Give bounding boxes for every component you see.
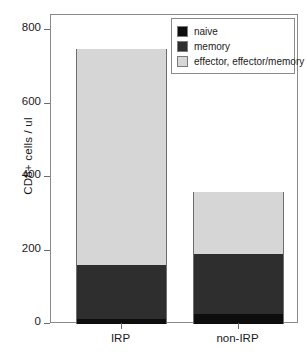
legend: naivememoryeffector, effector/memory [171, 18, 295, 74]
y-tick-label: 600 [22, 95, 41, 107]
bar-segment-memory [77, 265, 166, 319]
legend-swatch-icon [177, 41, 188, 52]
bar-segment-effector [194, 192, 283, 254]
y-tick: 800 [0, 29, 50, 30]
x-tick-mark [238, 323, 239, 329]
legend-label: naive [194, 26, 218, 37]
y-tick-mark [44, 323, 50, 324]
chart-figure: CD8+ cells / ul 0200400600800 IRPnon-IRP… [0, 0, 307, 359]
bar-irp [76, 49, 167, 324]
legend-label: effector, effector/memory [194, 56, 304, 67]
bar-segment-naive [194, 314, 283, 324]
y-tick-label: 400 [22, 168, 41, 180]
legend-swatch-icon [177, 26, 188, 37]
bar-segment-naive [77, 319, 166, 324]
bar-segment-effector [77, 49, 166, 265]
bar-segment-memory [194, 254, 283, 314]
y-tick-label: 200 [22, 242, 41, 254]
x-tick-label-non-irp: non-IRP [178, 332, 298, 344]
y-tick: 400 [0, 176, 50, 177]
legend-label: memory [194, 41, 230, 52]
y-tick: 600 [0, 103, 50, 104]
y-tick-label: 0 [35, 315, 41, 327]
legend-item: effector, effector/memory [177, 54, 290, 68]
x-tick-label-irp: IRP [61, 332, 181, 344]
legend-entries: naivememoryeffector, effector/memory [177, 24, 290, 68]
y-tick: 0 [0, 323, 50, 324]
legend-swatch-icon [177, 56, 188, 67]
x-tick-mark [121, 323, 122, 329]
bar-non-irp [193, 192, 284, 324]
y-axis-title: CD8+ cells / ul [22, 66, 34, 246]
legend-item: naive [177, 24, 290, 38]
y-tick-label: 800 [22, 21, 41, 33]
legend-item: memory [177, 39, 290, 53]
y-tick: 200 [0, 250, 50, 251]
